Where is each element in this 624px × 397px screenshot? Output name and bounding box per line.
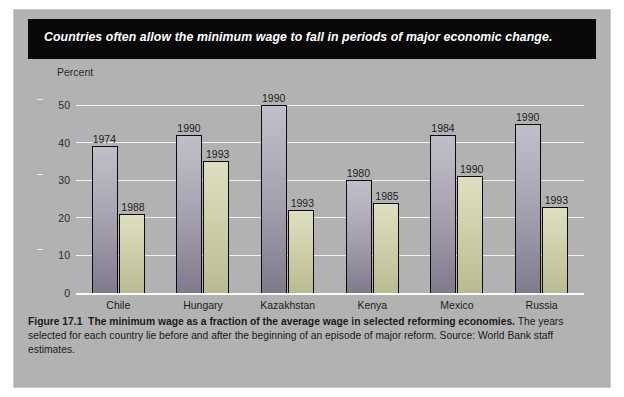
bar-kazakhstan-1993: 1993 <box>288 210 314 293</box>
y-axis-tick-mark-40 <box>37 174 43 175</box>
bar-year-label-chile-1974: 1974 <box>93 133 116 145</box>
bar-chile-1974: 1974 <box>92 146 118 293</box>
x-axis-label-chile: Chile <box>106 299 130 311</box>
bar-russia-1993: 1993 <box>542 207 568 293</box>
bar-year-label-kazakhstan-1990: 1990 <box>262 92 285 104</box>
figure-headline-text: Countries often allow the minimum wage t… <box>44 30 552 44</box>
bar-kenya-1985: 1985 <box>373 203 399 293</box>
x-axis-label-hungary: Hungary <box>183 299 223 311</box>
bar-hungary-1993: 1993 <box>203 161 229 293</box>
bar-year-label-chile-1988: 1988 <box>121 201 144 213</box>
y-axis-tick-50: 50 <box>44 99 70 111</box>
y-axis-tick-20: 20 <box>44 212 70 224</box>
bar-year-label-hungary-1993: 1993 <box>206 148 229 160</box>
bar-kenya-1980: 1980 <box>346 180 372 293</box>
y-axis-tick-0: 0 <box>44 287 70 299</box>
figure-caption-lead: The minimum wage as a fraction of the av… <box>88 316 515 327</box>
bar-group-kazakhstan: 19901993Kazakhstan <box>245 105 330 293</box>
gridline-0 <box>76 293 584 295</box>
bar-russia-1990: 1990 <box>515 124 541 293</box>
figure-caption-number: Figure 17.1 <box>28 316 82 327</box>
figure-caption: Figure 17.1 The minimum wage as a fracti… <box>28 315 596 358</box>
x-axis-label-kazakhstan: Kazakhstan <box>260 299 315 311</box>
bar-chart: Percent 01020304050 19741988Chile1990199… <box>28 63 596 306</box>
figure-plate: Countries often allow the minimum wage t… <box>14 10 610 387</box>
bar-group-chile: 19741988Chile <box>76 105 161 293</box>
x-axis-label-russia: Russia <box>526 299 558 311</box>
bar-group-kenya: 19801985Kenya <box>330 105 415 293</box>
bar-mexico-1984: 1984 <box>430 135 456 293</box>
y-axis-tick-40: 40 <box>44 137 70 149</box>
plot-area: 19741988Chile19901993Hungary19901993Kaza… <box>76 105 584 293</box>
y-axis-tick-mark-50 <box>37 99 43 100</box>
bar-year-label-mexico-1990: 1990 <box>460 163 483 175</box>
bar-chile-1988: 1988 <box>119 214 145 293</box>
y-axis-tick-10: 10 <box>44 249 70 261</box>
bar-year-label-kenya-1980: 1980 <box>347 167 370 179</box>
bar-year-label-kenya-1985: 1985 <box>375 190 398 202</box>
bar-year-label-mexico-1984: 1984 <box>431 122 454 134</box>
bar-hungary-1990: 1990 <box>176 135 202 293</box>
y-axis-tick-30: 30 <box>44 174 70 186</box>
figure-headline-banner: Countries often allow the minimum wage t… <box>28 19 596 59</box>
x-axis-label-kenya: Kenya <box>357 299 387 311</box>
y-axis-tick-labels: 01020304050 <box>38 105 70 293</box>
y-axis-unit-label: Percent <box>57 66 93 78</box>
y-axis-tick-mark-30 <box>37 249 43 250</box>
x-axis-label-mexico: Mexico <box>440 299 473 311</box>
bar-mexico-1990: 1990 <box>457 176 483 293</box>
bar-year-label-kazakhstan-1993: 1993 <box>291 197 314 209</box>
bar-year-label-hungary-1990: 1990 <box>177 122 200 134</box>
bar-kazakhstan-1990: 1990 <box>261 105 287 293</box>
bar-group-russia: 19901993Russia <box>499 105 584 293</box>
bar-year-label-russia-1990: 1990 <box>516 111 539 123</box>
bar-group-hungary: 19901993Hungary <box>161 105 246 293</box>
bar-group-mexico: 19841990Mexico <box>415 105 500 293</box>
bar-year-label-russia-1993: 1993 <box>545 194 568 206</box>
